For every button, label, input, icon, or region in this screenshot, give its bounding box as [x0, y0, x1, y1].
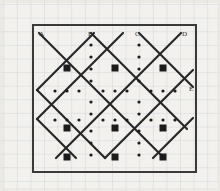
figure-canvas: A B C D E — [0, 0, 220, 191]
square-node — [160, 125, 167, 132]
label-c: C — [135, 31, 140, 38]
square-node — [160, 154, 167, 161]
label-b: B — [88, 31, 93, 38]
label-d: D — [182, 31, 187, 38]
square-node — [112, 65, 119, 72]
square-node — [112, 154, 119, 161]
square-node — [64, 65, 71, 72]
label-e: E — [189, 86, 193, 93]
label-a: A — [39, 31, 44, 38]
lattice-diagram — [0, 0, 220, 191]
square-node — [64, 125, 71, 132]
square-node — [160, 65, 167, 72]
square-node — [64, 154, 71, 161]
square-node — [112, 125, 119, 132]
